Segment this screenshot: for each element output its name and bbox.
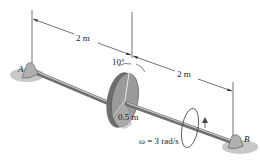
label-support-a: A: [18, 65, 24, 74]
label-dim-left: 2 m: [76, 34, 90, 43]
label-dim-right: 2 m: [177, 70, 191, 79]
label-disk-radius: 0.5 m: [118, 113, 139, 122]
label-support-b: B: [244, 135, 250, 144]
support-b: [228, 135, 243, 149]
shaft-disk-diagram: [0, 0, 260, 168]
label-angular-velocity: ω = 3 rad/s: [139, 137, 179, 146]
label-tilt-angle: 10°: [112, 58, 125, 67]
